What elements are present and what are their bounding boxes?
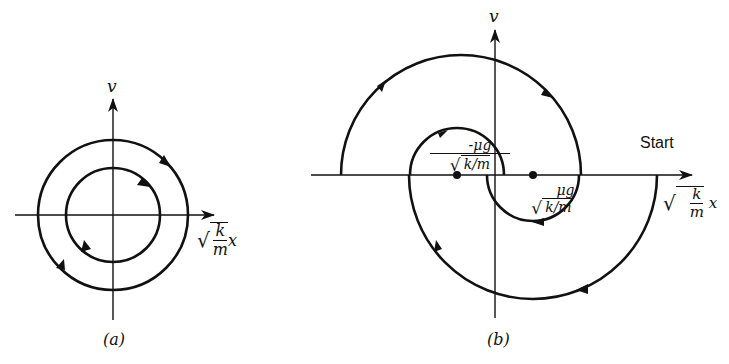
sqrt-symbol: √ bbox=[450, 155, 461, 175]
start-label: Start bbox=[640, 134, 674, 152]
panel-b-v-label: v bbox=[489, 6, 499, 26]
panel-a-caption: (a) bbox=[103, 330, 125, 349]
fraction: km bbox=[676, 186, 704, 220]
sqrt-symbol: √ bbox=[663, 191, 676, 215]
denominator: √k/m bbox=[510, 198, 593, 218]
numerator: k bbox=[213, 223, 227, 241]
numerator: μg bbox=[510, 182, 593, 198]
variable: x bbox=[228, 231, 237, 250]
numerator: k bbox=[690, 187, 703, 204]
variable: x bbox=[709, 194, 717, 212]
denominator-text: k/m bbox=[542, 198, 571, 215]
diagram-canvas bbox=[0, 0, 729, 364]
denominator-text: k/m bbox=[461, 155, 490, 172]
sqrt-symbol: √ bbox=[197, 228, 210, 252]
fraction: km bbox=[210, 222, 228, 258]
panel-b-caption: (b) bbox=[487, 330, 510, 349]
numerator: -μg bbox=[430, 137, 510, 154]
panel-a-x-label: √kmx bbox=[197, 222, 237, 258]
panel-a-v-label: v bbox=[107, 76, 117, 96]
right-point-label: μg √k/m bbox=[510, 182, 593, 218]
denominator: m bbox=[690, 204, 704, 220]
panel-b-x-label: √km x bbox=[663, 186, 717, 220]
sqrt-symbol: √ bbox=[531, 198, 542, 218]
left-point-label: -μg √k/m bbox=[430, 137, 510, 175]
panel-a bbox=[15, 99, 214, 320]
denominator: m bbox=[213, 241, 228, 258]
denominator: √k/m bbox=[430, 155, 510, 175]
right-equilibrium-point bbox=[529, 171, 537, 179]
